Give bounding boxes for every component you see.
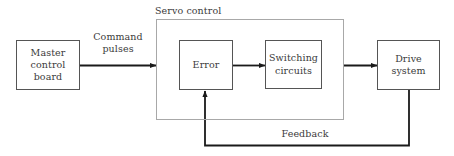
node-switching-circuits[interactable]: Switching circuits [265, 40, 322, 89]
node-error-label: Error [191, 59, 222, 71]
servo-control-diagram: Servo control Master control board Error… [0, 0, 454, 156]
edge-label-command-pulses: Command pulses [80, 31, 156, 56]
node-master-control-board-label: Master control board [29, 47, 68, 83]
servo-control-group-label: Servo control [155, 5, 221, 16]
node-error[interactable]: Error [179, 40, 233, 90]
node-drive-system-label: Drive system [389, 53, 427, 77]
node-drive-system[interactable]: Drive system [377, 40, 440, 90]
edge-label-feedback: Feedback [272, 128, 338, 140]
node-switching-circuits-label: Switching circuits [267, 52, 320, 76]
node-master-control-board[interactable]: Master control board [16, 40, 80, 90]
